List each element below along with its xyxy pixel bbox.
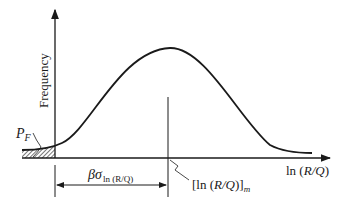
mean-label-leader bbox=[170, 160, 189, 180]
reliability-diagram: Frequency ln (R/Q) PF βσln (R/Q) [ln (R/… bbox=[0, 0, 354, 211]
beta-sigma-label: βσln (R/Q) bbox=[87, 167, 133, 184]
y-axis-label: Frequency bbox=[36, 53, 51, 108]
failure-probability-label: PF bbox=[15, 126, 32, 143]
x-axis-label: ln (R/Q) bbox=[286, 163, 329, 178]
density-curve bbox=[22, 48, 312, 153]
mean-label: [ln (R/Q)]m bbox=[192, 177, 251, 194]
